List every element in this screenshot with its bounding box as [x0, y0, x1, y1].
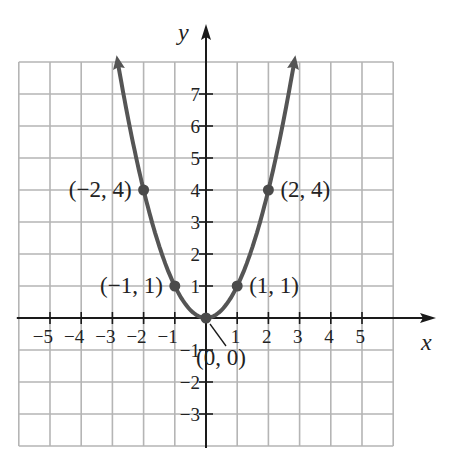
point-marker	[201, 313, 212, 324]
point-label: (−2, 4)	[69, 177, 132, 202]
y-tick-label: 7	[191, 84, 201, 105]
point-marker	[263, 185, 274, 196]
y-tick-label: −1	[180, 340, 200, 361]
point-label: (2, 4)	[280, 177, 330, 202]
x-tick-label: −4	[64, 326, 85, 347]
point-label: (0, 0)	[196, 345, 246, 370]
y-tick-label: 3	[191, 212, 201, 233]
parabola-chart: (−2, 4)(−1, 1)(0, 0)(1, 1)(2, 4) −5−4−3−…	[0, 0, 451, 462]
x-tick-label: 3	[293, 326, 303, 347]
x-tick-label: 4	[324, 326, 334, 347]
x-axis-label: x	[420, 329, 432, 355]
point-label: (1, 1)	[249, 273, 299, 298]
point-marker	[232, 281, 243, 292]
x-tick-label: −3	[95, 326, 115, 347]
y-tick-label: 1	[191, 276, 201, 297]
y-tick-label: 4	[191, 180, 201, 201]
point-label: (−1, 1)	[100, 273, 163, 298]
y-tick-label: 5	[191, 148, 201, 169]
leader-line	[210, 324, 226, 346]
x-tick-label: 5	[356, 326, 366, 347]
y-axis-label: y	[176, 19, 189, 45]
x-tick-label: −5	[33, 326, 53, 347]
y-tick-label: −2	[180, 372, 200, 393]
y-tick-label: 2	[191, 244, 201, 265]
point-marker	[138, 185, 149, 196]
x-tick-label: 1	[231, 326, 241, 347]
x-tick-label: −2	[126, 326, 146, 347]
point-marker	[169, 281, 180, 292]
y-tick-label: 6	[191, 116, 201, 137]
x-tick-label: 2	[262, 326, 272, 347]
x-tick-label: −1	[158, 326, 178, 347]
axes	[17, 24, 436, 448]
y-tick-label: −3	[180, 404, 200, 425]
